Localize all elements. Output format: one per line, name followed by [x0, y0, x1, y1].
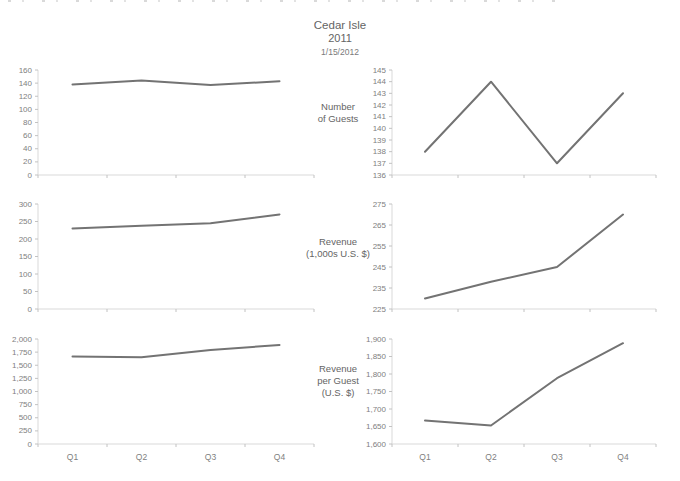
- figure-year: 2011: [276, 32, 404, 46]
- svg-text:2,000: 2,000: [12, 335, 33, 344]
- svg-text:245: 245: [373, 263, 387, 272]
- figure-canvas: Cedar Isle 2011 1/15/2012 Number of Gues…: [0, 0, 680, 481]
- chart-number-of-guests-full-scale: 020406080100120140160: [4, 62, 318, 184]
- svg-text:139: 139: [373, 136, 387, 145]
- figure-title-block: Cedar Isle 2011 1/15/2012: [276, 18, 404, 58]
- svg-text:225: 225: [373, 305, 387, 314]
- svg-text:40: 40: [23, 144, 32, 153]
- figure-date: 1/15/2012: [276, 47, 404, 58]
- svg-text:Q4: Q4: [617, 452, 629, 462]
- svg-text:Q2: Q2: [485, 452, 497, 462]
- svg-text:250: 250: [19, 217, 33, 226]
- chart-revenue-per-guest-zoomed: 1,6001,6501,7001,7501,8001,8501,900Q1Q2Q…: [358, 331, 660, 471]
- svg-text:1,600: 1,600: [366, 440, 387, 449]
- svg-text:1,750: 1,750: [12, 348, 33, 357]
- svg-text:1,500: 1,500: [12, 361, 33, 370]
- svg-text:100: 100: [19, 105, 33, 114]
- svg-text:138: 138: [373, 147, 387, 156]
- chart-revenue-per-guest-full-scale: 02505007501,0001,2501,5001,7502,000Q1Q2Q…: [4, 331, 318, 471]
- svg-text:1,850: 1,850: [366, 352, 387, 361]
- svg-text:160: 160: [19, 66, 33, 75]
- svg-text:Q1: Q1: [67, 452, 79, 462]
- svg-text:60: 60: [23, 131, 32, 140]
- svg-text:0: 0: [28, 440, 33, 449]
- svg-text:140: 140: [19, 79, 33, 88]
- svg-text:Q3: Q3: [205, 452, 217, 462]
- svg-text:141: 141: [373, 112, 387, 121]
- svg-text:1,000: 1,000: [12, 387, 33, 396]
- svg-text:265: 265: [373, 221, 387, 230]
- svg-text:137: 137: [373, 159, 387, 168]
- svg-text:1,700: 1,700: [366, 405, 387, 414]
- svg-text:1,650: 1,650: [366, 422, 387, 431]
- chart-number-of-guests-zoomed: 136137138139140141142143144145: [358, 62, 660, 184]
- svg-text:Q1: Q1: [419, 452, 431, 462]
- svg-text:136: 136: [373, 171, 387, 180]
- svg-text:143: 143: [373, 89, 387, 98]
- figure-title: Cedar Isle: [276, 18, 404, 32]
- svg-text:0: 0: [28, 171, 33, 180]
- svg-text:100: 100: [19, 270, 33, 279]
- svg-text:142: 142: [373, 101, 387, 110]
- svg-text:500: 500: [19, 413, 33, 422]
- svg-text:120: 120: [19, 92, 33, 101]
- svg-text:Q3: Q3: [551, 452, 563, 462]
- svg-text:145: 145: [373, 66, 387, 75]
- svg-text:235: 235: [373, 284, 387, 293]
- svg-text:1,800: 1,800: [366, 370, 387, 379]
- svg-text:1,750: 1,750: [366, 387, 387, 396]
- svg-text:1,900: 1,900: [366, 335, 387, 344]
- svg-text:250: 250: [19, 426, 33, 435]
- chart-revenue-full-scale: 050100150200250300: [4, 196, 318, 318]
- svg-text:140: 140: [373, 124, 387, 133]
- svg-text:144: 144: [373, 77, 387, 86]
- svg-text:255: 255: [373, 242, 387, 251]
- svg-text:50: 50: [23, 287, 32, 296]
- svg-text:Q4: Q4: [274, 452, 286, 462]
- svg-text:300: 300: [19, 200, 33, 209]
- chart-revenue-zoomed: 225235245255265275: [358, 196, 660, 318]
- svg-text:20: 20: [23, 157, 32, 166]
- svg-text:200: 200: [19, 235, 33, 244]
- svg-text:275: 275: [373, 200, 387, 209]
- svg-text:750: 750: [19, 400, 33, 409]
- svg-text:0: 0: [28, 305, 33, 314]
- cropped-text-artifact: [8, 0, 558, 2]
- svg-text:80: 80: [23, 118, 32, 127]
- svg-text:150: 150: [19, 252, 33, 261]
- svg-text:1,250: 1,250: [12, 374, 33, 383]
- svg-text:Q2: Q2: [136, 452, 148, 462]
